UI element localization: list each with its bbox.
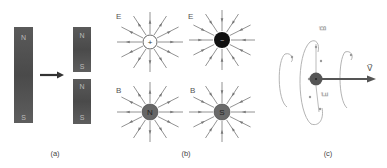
field-loop-left <box>279 54 287 107</box>
arrow-head-icon <box>232 20 235 24</box>
arrow-head-icon <box>167 101 171 104</box>
arrow-head-icon <box>201 28 205 31</box>
arrow-head-icon <box>232 55 235 59</box>
pole-label-s: S <box>80 63 85 70</box>
arrow-head-icon <box>232 92 235 96</box>
panel-a: N S N S N S (a) <box>14 27 91 158</box>
n-symbol: N <box>147 108 153 117</box>
arrow-head-icon <box>221 90 224 94</box>
arrow-head-icon <box>201 100 205 103</box>
arrow-head-icon <box>232 127 235 131</box>
plus-symbol: + <box>148 38 153 47</box>
pole-label-s: S <box>80 114 85 121</box>
arrow-head-icon <box>198 111 202 114</box>
pole-label-n: N <box>79 32 84 39</box>
arrow-head-icon <box>221 58 224 62</box>
pole-label-n: N <box>21 34 26 41</box>
arrow-head-icon <box>239 121 243 124</box>
caption-a: (a) <box>50 149 60 158</box>
field-label-e: E <box>188 12 193 21</box>
s-symbol: S <box>219 108 224 117</box>
arrow-head-icon <box>242 111 246 114</box>
arrow-head-icon <box>129 31 133 34</box>
arrow-head-icon <box>129 50 133 53</box>
field-label-b: B <box>190 86 195 95</box>
arrow-head-icon <box>367 76 376 83</box>
field-label-e: E <box>116 12 121 21</box>
arrow-head-icon <box>126 111 130 114</box>
caption-b: (b) <box>181 149 191 158</box>
velocity-label: V⃗ <box>367 63 373 73</box>
physics-figure: N S N S N S (a) E E B B + − N S (b) <box>0 0 387 168</box>
arrow-head-icon <box>167 31 171 34</box>
pole-label-n: N <box>79 83 84 90</box>
arrow-head-icon <box>149 60 152 64</box>
e-field-label: E⃗ <box>320 92 330 97</box>
arrow-head-icon <box>167 50 171 53</box>
arrow-head-icon <box>149 90 152 94</box>
arrow-head-icon <box>167 120 171 123</box>
field-label-b: B <box>116 86 121 95</box>
minus-symbol: − <box>220 37 224 44</box>
arrow-head-icon <box>201 49 205 52</box>
arrow-head-icon <box>239 28 243 31</box>
arrow-head-icon <box>170 111 174 114</box>
right-arrow-icon <box>40 72 64 79</box>
arrow-head-icon <box>242 39 246 42</box>
arrow-head-icon <box>170 41 174 44</box>
arrow-head-icon <box>209 55 212 59</box>
arrow-head-icon <box>209 20 212 24</box>
arrow-head-icon <box>239 49 243 52</box>
arrow-head-icon <box>239 100 243 103</box>
arrow-head-icon <box>129 101 133 104</box>
arrow-head-icon <box>221 18 224 22</box>
panel-b <box>117 10 255 142</box>
arrow-head-icon <box>126 41 130 44</box>
arrow-head-icon <box>149 130 152 134</box>
arrow-head-icon <box>149 20 152 24</box>
arrow-head-icon <box>198 39 202 42</box>
arrow-head-icon <box>129 120 133 123</box>
panel-c: B⃗ E⃗ V⃗ (c) <box>279 26 376 158</box>
arrow-head-icon <box>201 121 205 124</box>
pole-label-s: S <box>21 114 26 121</box>
bar-magnet-whole <box>14 27 33 123</box>
arrow-head-icon <box>221 130 224 134</box>
b-field-label: B⃗ <box>318 26 328 31</box>
caption-c: (c) <box>324 149 333 158</box>
arrow-head-icon <box>209 92 212 96</box>
arrow-head-icon <box>209 127 212 131</box>
